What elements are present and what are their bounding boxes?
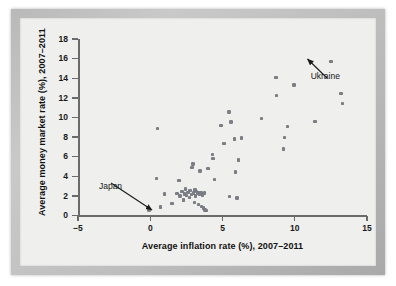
scatter-point — [188, 196, 191, 199]
scatter-point — [211, 153, 214, 156]
scatter-point — [219, 124, 222, 127]
x-tick-mark — [222, 216, 223, 221]
scatter-point — [237, 158, 240, 161]
scatter-point — [227, 110, 230, 113]
scatter-point — [170, 202, 173, 205]
annotation-arrow-japan — [110, 182, 166, 222]
x-tick-mark — [77, 216, 78, 221]
y-tick-label: 4 — [44, 172, 68, 181]
scatter-point — [203, 191, 206, 194]
scatter-point — [292, 83, 295, 86]
y-tick-mark — [72, 58, 78, 59]
scatter-point — [182, 198, 185, 201]
x-tick-label: 10 — [282, 224, 308, 233]
scatter-point — [177, 179, 180, 182]
y-tick-mark — [72, 117, 78, 118]
y-tick-label: 12 — [44, 94, 68, 103]
scatter-point — [313, 120, 316, 123]
scatter-point — [211, 157, 214, 160]
scatter-point — [198, 169, 201, 172]
scatter-point — [194, 194, 197, 197]
y-tick-mark — [72, 176, 78, 177]
scatter-point — [229, 120, 232, 123]
x-tick-label: −5 — [65, 224, 91, 233]
x-tick-label: 5 — [210, 224, 236, 233]
scatter-point — [282, 147, 285, 150]
y-tick-label: 14 — [44, 74, 68, 83]
y-tick-label: 8 — [44, 133, 68, 142]
y-axis-title: Average money market rate (%), 2007–2011 — [37, 30, 47, 216]
y-tick-label: 6 — [44, 152, 68, 161]
scatter-point — [275, 94, 278, 97]
scatter-point — [234, 170, 237, 173]
scatter-point — [228, 195, 231, 198]
y-tick-label: 0 — [44, 211, 68, 220]
y-tick-mark — [72, 136, 78, 137]
scatter-point — [235, 196, 238, 199]
scatter-point — [191, 162, 194, 165]
y-tick-label: 18 — [44, 35, 68, 44]
plot-area: 024681012141618 −5051015 Japan Ukraine A… — [20, 18, 376, 266]
scatter-point — [205, 209, 208, 212]
annotation-arrow-ukraine — [303, 56, 339, 84]
scatter-point — [341, 102, 344, 105]
scatter-point — [339, 92, 342, 95]
scatter-point — [156, 127, 159, 130]
scatter-point — [206, 167, 209, 170]
scatter-point — [213, 178, 216, 181]
scatter-point — [286, 125, 289, 128]
figure-frame: 024681012141618 −5051015 Japan Ukraine A… — [11, 9, 385, 275]
scatter-point — [283, 136, 286, 139]
scatter-point — [233, 137, 236, 140]
y-tick-label: 16 — [44, 54, 68, 63]
scatter-point — [193, 201, 196, 204]
scatter-point — [260, 117, 263, 120]
scatter-point — [274, 76, 277, 79]
y-tick-label: 2 — [44, 192, 68, 201]
x-tick-mark — [366, 216, 367, 221]
x-tick-label: 15 — [354, 224, 376, 233]
y-tick-mark — [72, 97, 78, 98]
scatter-point — [155, 177, 158, 180]
scatter-point — [222, 142, 225, 145]
x-tick-label: 0 — [137, 224, 163, 233]
scatter-point — [240, 136, 243, 139]
y-tick-mark — [72, 38, 78, 39]
y-tick-label: 10 — [44, 113, 68, 122]
scatter-point — [190, 166, 193, 169]
x-tick-mark — [294, 216, 295, 221]
y-tick-mark — [72, 78, 78, 79]
x-axis-title: Average inflation rate (%), 2007–2011 — [78, 241, 367, 251]
y-tick-mark — [72, 156, 78, 157]
scatter-point — [178, 194, 181, 197]
y-axis-line — [78, 39, 80, 216]
y-tick-mark — [72, 195, 78, 196]
